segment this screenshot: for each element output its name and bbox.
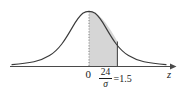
axis-label-z: z [167, 70, 171, 81]
normal-distribution-figure: 0 24 σ =1.5 z [0, 0, 182, 96]
threshold-equals-value: =1.5 [114, 74, 132, 84]
tick-label-threshold: 24 σ =1.5 [99, 68, 132, 89]
tick-label-origin-text: 0 [86, 69, 92, 80]
fraction-24-over-sigma: 24 σ [99, 68, 112, 89]
distribution-plot [0, 0, 182, 96]
fraction-numerator: 24 [100, 68, 112, 78]
fraction-denominator: σ [102, 79, 109, 89]
